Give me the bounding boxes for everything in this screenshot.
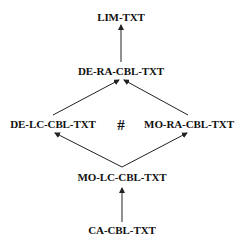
node-lim-txt: LIM-TXT <box>97 11 145 23</box>
node-mo-lc-cbl-txt: MO-LC-CBL-TXT <box>77 171 166 183</box>
edge-mo-lc-to-de-lc <box>55 133 122 167</box>
edge-de-lc-to-de-ra <box>53 80 119 115</box>
node-de-ra-cbl-txt: DE-RA-CBL-TXT <box>78 65 164 77</box>
edge-mo-lc-to-mo-ra <box>122 133 187 167</box>
edge-mo-ra-to-de-ra <box>124 80 188 115</box>
lattice-diagram: LIM-TXT DE-RA-CBL-TXT DE-LC-CBL-TXT MO-R… <box>0 0 241 248</box>
node-de-lc-cbl-txt: DE-LC-CBL-TXT <box>10 118 96 130</box>
incomparable-separator: # <box>117 117 125 134</box>
node-mo-ra-cbl-txt: MO-RA-CBL-TXT <box>144 118 234 130</box>
node-ca-cbl-txt: CA-CBL-TXT <box>88 224 155 236</box>
